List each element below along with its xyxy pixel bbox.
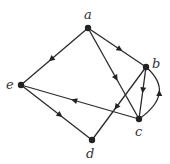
edge-c-to-b-arrow-icon bbox=[156, 90, 162, 96]
node-b bbox=[143, 64, 149, 70]
edge-a-to-c bbox=[88, 28, 139, 119]
graph-canvas: abcde bbox=[0, 0, 170, 164]
node-e bbox=[18, 82, 24, 88]
edge-b-to-c-arrow-icon bbox=[140, 87, 146, 93]
node-c bbox=[136, 116, 142, 122]
node-d bbox=[89, 137, 95, 143]
edge-a-to-e bbox=[21, 28, 88, 85]
edge-c-to-e bbox=[21, 85, 139, 119]
node-a bbox=[85, 25, 91, 31]
edge-a-to-b-arrow-icon bbox=[116, 45, 123, 51]
node-label-d: d bbox=[86, 146, 94, 161]
edge-e-to-d bbox=[21, 85, 92, 140]
node-label-c: c bbox=[135, 124, 143, 139]
edge-a-to-b bbox=[88, 28, 146, 67]
node-label-a: a bbox=[84, 7, 92, 22]
node-label-b: b bbox=[152, 56, 160, 71]
graph-diagram: abcde bbox=[0, 0, 170, 164]
edge-b-to-d-arrow-icon bbox=[115, 103, 121, 110]
node-label-e: e bbox=[6, 77, 14, 92]
